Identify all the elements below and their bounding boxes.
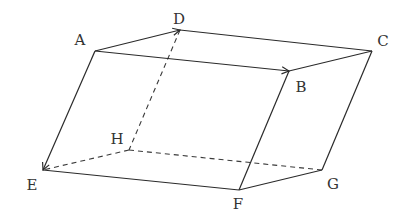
parallelepiped-diagram: A B C D E F G H <box>0 0 416 218</box>
edge-fg <box>239 170 322 190</box>
hidden-edge-dh <box>129 30 180 150</box>
edge-bc <box>289 51 372 71</box>
vector-edges <box>43 30 289 170</box>
hidden-edge-he <box>43 150 129 170</box>
vector-ab <box>95 51 289 71</box>
vertex-label-h: H <box>110 132 123 147</box>
visible-edges <box>43 30 372 190</box>
edge-ef <box>43 170 239 190</box>
vertex-label-f: F <box>233 197 243 212</box>
edge-cg <box>322 51 372 170</box>
hidden-edge-hg <box>129 150 322 170</box>
vertex-label-a: A <box>75 33 86 48</box>
vector-ae <box>43 51 95 170</box>
vertex-label-g: G <box>327 177 339 192</box>
vector-ad <box>95 30 180 51</box>
hidden-edges <box>43 30 322 170</box>
vertex-label-e: E <box>27 178 38 193</box>
edge-bf <box>239 71 289 190</box>
vertex-label-b: B <box>295 80 306 95</box>
vertex-label-c: C <box>377 34 388 49</box>
vertex-label-d: D <box>173 12 185 27</box>
diagram-canvas <box>0 0 416 218</box>
edge-cd <box>180 30 372 51</box>
